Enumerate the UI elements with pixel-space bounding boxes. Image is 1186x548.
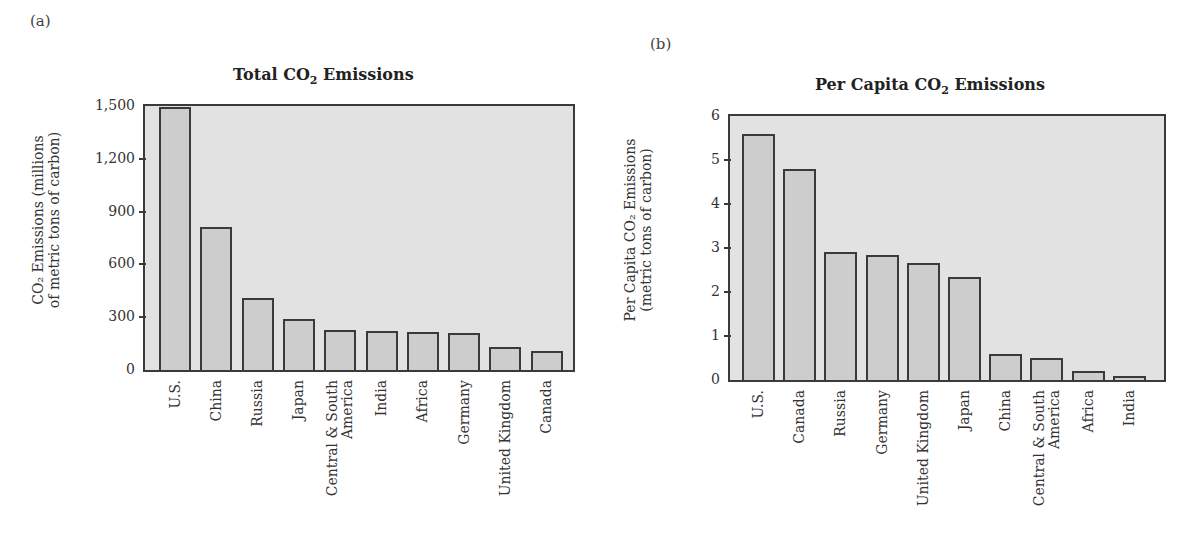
panel-label-b: (b) — [650, 35, 671, 53]
x-tick-label: U.S. — [168, 380, 183, 520]
x-tick-label: Japan — [957, 390, 972, 530]
y-tick-label: 2 — [660, 283, 720, 299]
y-tick — [139, 211, 146, 213]
y-tick-label: 600 — [75, 255, 135, 271]
y-tick-label: 1,500 — [75, 97, 135, 113]
bar — [866, 255, 899, 382]
bar — [1030, 358, 1063, 382]
y-tick-label: 3 — [660, 239, 720, 255]
y-tick — [724, 335, 731, 337]
x-tick-label: Central & South America — [1032, 390, 1062, 530]
x-tick-label: Canada — [792, 390, 807, 530]
chart-title: Total CO2 Emissions — [233, 65, 414, 87]
bar — [324, 330, 356, 372]
x-tick-label: Japan — [291, 380, 306, 520]
x-tick-label: Africa — [1081, 390, 1096, 530]
y-axis-label: CO₂ Emissions (millions of metric tons o… — [30, 110, 62, 330]
x-tick-label: China — [998, 390, 1013, 530]
bar — [200, 227, 232, 372]
x-tick-label: United Kingdom — [916, 390, 931, 530]
x-tick-label: U.S. — [751, 390, 766, 530]
bar — [159, 107, 191, 372]
y-tick-label: 0 — [75, 361, 135, 377]
y-tick-label: 0 — [660, 371, 720, 387]
x-tick-label: Germany — [457, 380, 472, 520]
x-tick-label: Russia — [833, 390, 848, 530]
bar — [407, 332, 439, 372]
bar — [489, 347, 521, 372]
y-tick — [724, 203, 731, 205]
bar — [366, 331, 398, 372]
bar — [824, 252, 857, 382]
chart-title: Per Capita CO2 Emissions — [815, 75, 1045, 97]
bar — [1113, 376, 1146, 382]
plot-area — [143, 104, 575, 372]
x-tick-label: Central & South America — [325, 380, 355, 520]
x-tick-label: Canada — [539, 380, 554, 520]
bar — [531, 351, 563, 372]
bar — [948, 277, 981, 382]
bar — [742, 134, 775, 382]
y-axis-label: Per Capita CO₂ Emissions (metric tons of… — [622, 105, 654, 355]
panel-label-a: (a) — [30, 12, 51, 30]
bar — [448, 333, 480, 372]
y-tick — [724, 291, 731, 293]
bar — [283, 319, 315, 372]
plot-area — [728, 114, 1166, 382]
x-tick-label: Germany — [875, 390, 890, 530]
x-tick-label: India — [374, 380, 389, 520]
y-tick-label: 4 — [660, 195, 720, 211]
x-tick-label: India — [1122, 390, 1137, 530]
y-tick-label: 1 — [660, 327, 720, 343]
y-tick-label: 5 — [660, 151, 720, 167]
y-tick-label: 300 — [75, 308, 135, 324]
y-tick — [139, 263, 146, 265]
bar — [1072, 371, 1105, 382]
y-tick-label: 1,200 — [75, 150, 135, 166]
y-tick-label: 900 — [75, 203, 135, 219]
y-tick — [724, 247, 731, 249]
x-tick-label: China — [209, 380, 224, 520]
bar — [783, 169, 816, 382]
bar — [907, 263, 940, 382]
y-tick — [724, 159, 731, 161]
bar — [989, 354, 1022, 382]
x-tick-label: United Kingdom — [498, 380, 513, 520]
x-tick-label: Africa — [415, 380, 430, 520]
bar — [242, 298, 274, 372]
y-tick — [139, 316, 146, 318]
y-tick — [139, 158, 146, 160]
y-tick-label: 6 — [660, 107, 720, 123]
x-tick-label: Russia — [250, 380, 265, 520]
